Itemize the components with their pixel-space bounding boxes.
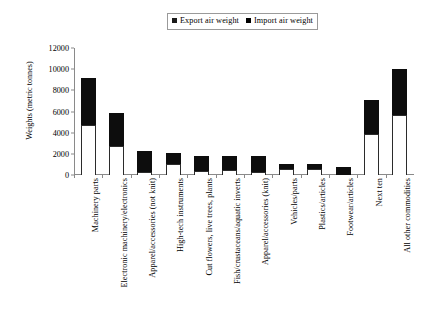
- bar-segment-export: [251, 172, 266, 175]
- bar-stack: [279, 48, 294, 175]
- bar-stack: [222, 48, 237, 175]
- x-axis-category-label: Apparel/accessories (not knit): [148, 178, 157, 278]
- bar-segment-export: [194, 171, 209, 175]
- bar-stack: [81, 48, 96, 175]
- legend-entry-import: Import air weight: [246, 17, 313, 25]
- x-axis-category-label: Cut flowers, live trees, plants: [205, 178, 214, 276]
- bar-stack: [251, 48, 266, 175]
- x-axis-category-label: All other commodities: [403, 178, 412, 253]
- bar-segment-import: [222, 156, 237, 170]
- legend-label-import: Import air weight: [254, 17, 313, 25]
- x-axis-category-label: Plastics/articles: [318, 178, 327, 230]
- x-axis-category-labels: Machinery partsElectronic machinery/elec…: [74, 178, 414, 326]
- bar-stack: [307, 48, 322, 175]
- bar-stack: [137, 48, 152, 175]
- bar-segment-import: [307, 164, 322, 169]
- bar-segment-export: [109, 146, 124, 175]
- bar-stack: [364, 48, 379, 175]
- bar-segment-import: [109, 113, 124, 146]
- bar-segment-export: [279, 169, 294, 175]
- x-axis-category-label: Vehicles/parts: [290, 178, 299, 225]
- legend-label-export: Export air weight: [180, 17, 239, 25]
- plot-area: 020004000600080001000012000: [74, 48, 414, 175]
- bar-stack: [109, 48, 124, 175]
- x-axis-category-label: Apparel/accessories (knit): [261, 178, 270, 265]
- y-axis-title: Weights (metric tonnes): [25, 46, 34, 156]
- bar-segment-import: [251, 156, 266, 172]
- chart-legend: Export air weight Import air weight: [167, 13, 318, 30]
- bar-segment-import: [392, 69, 407, 115]
- x-axis-category-label: Machinery parts: [91, 178, 100, 232]
- bar-segment-import: [194, 156, 209, 171]
- x-axis-category-label: High-tech instruments: [176, 178, 185, 252]
- bar-stack: [194, 48, 209, 175]
- bar-segment-export: [392, 115, 407, 175]
- bar-segment-import: [81, 78, 96, 125]
- bar-segment-import: [364, 100, 379, 134]
- bar-segment-export: [137, 172, 152, 175]
- x-axis-category-label: Fish/crustaceans/aquatic inverts: [233, 178, 242, 284]
- x-axis-category-label: Electronic machinery/electronics: [120, 178, 129, 288]
- bar-segment-import: [336, 167, 351, 175]
- bar-segment-export: [81, 125, 96, 175]
- bar-segment-export: [364, 134, 379, 175]
- bar-segment-import: [166, 153, 181, 164]
- bar-segment-import: [137, 151, 152, 172]
- air-freight-weights-chart: Export air weight Import air weight Weig…: [0, 0, 430, 326]
- x-axis-category-label: Footwear/articles: [346, 178, 355, 236]
- bar-segment-export: [166, 164, 181, 175]
- x-axis-category-label: Next ten: [375, 178, 384, 206]
- bar-stack: [392, 48, 407, 175]
- bar-segment-import: [279, 164, 294, 169]
- bar-segment-export: [307, 169, 322, 175]
- bar-segment-export: [222, 170, 237, 175]
- import-swatch-icon: [246, 18, 251, 23]
- bar-stack: [166, 48, 181, 175]
- export-swatch-icon: [172, 18, 177, 23]
- legend-entry-export: Export air weight: [172, 17, 239, 25]
- bar-series-layer: [74, 48, 414, 175]
- bar-stack: [336, 48, 351, 175]
